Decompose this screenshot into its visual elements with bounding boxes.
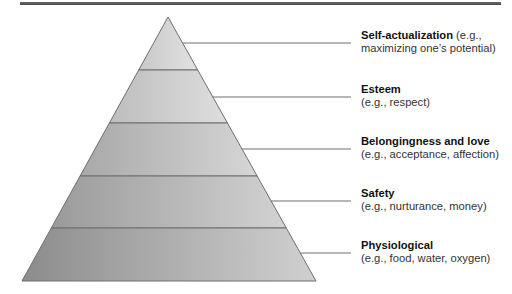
level-desc: maximizing one’s potential) [361, 42, 496, 54]
level-label-belongingness: Belongingness and love (e.g., acceptance… [361, 135, 499, 161]
level-label-safety: Safety (e.g., nurturance, money) [361, 187, 487, 213]
level-label-physiological: Physiological (e.g., food, water, oxygen… [361, 239, 490, 265]
level-desc: (e.g., respect) [361, 96, 430, 108]
level-label-self-actualization: Self-actualization (e.g., maximizing one… [361, 29, 496, 55]
level-desc-inline: (e.g., [453, 29, 482, 41]
level-title: Esteem [361, 83, 401, 95]
pyramid-tier-safety [51, 176, 286, 228]
level-title: Belongingness and love [361, 135, 490, 147]
level-label-esteem: Esteem (e.g., respect) [361, 83, 430, 109]
pyramid-tier-belongingness [80, 123, 257, 176]
level-title: Safety [361, 187, 395, 199]
level-title: Physiological [361, 239, 433, 251]
pyramid-tier-esteem [109, 70, 227, 123]
level-desc: (e.g., food, water, oxygen) [361, 252, 490, 264]
pyramid-tier-physiological [22, 228, 316, 281]
level-desc: (e.g., acceptance, affection) [361, 148, 499, 160]
level-title: Self-actualization [361, 29, 453, 41]
level-desc: (e.g., nurturance, money) [361, 200, 487, 212]
